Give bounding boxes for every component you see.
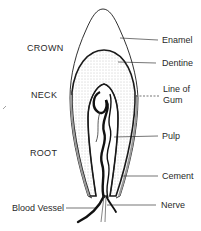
label-root: ROOT [30,148,57,158]
label-dentine: Dentine [162,58,193,68]
label-gum-line-1: Line of [163,84,190,94]
label-enamel: Enamel [162,35,193,45]
label-gum-line-2: Gum [163,95,183,105]
label-pulp: Pulp [162,131,180,141]
label-cement: Cement [162,171,194,181]
label-blood-vessel: Blood Vessel [12,203,64,213]
leader-enamel [120,38,158,40]
stray-mark [3,106,6,109]
blood-vessel-right [106,196,116,212]
label-neck: NECK [31,90,57,100]
label-nerve: Nerve [161,200,185,210]
blood-vessel [78,196,104,222]
pulp-vessel-loop [94,92,107,113]
pulp-vessel-main [101,100,108,198]
label-crown: CROWN [27,43,64,53]
pulp-nerve-branch [96,112,100,142]
